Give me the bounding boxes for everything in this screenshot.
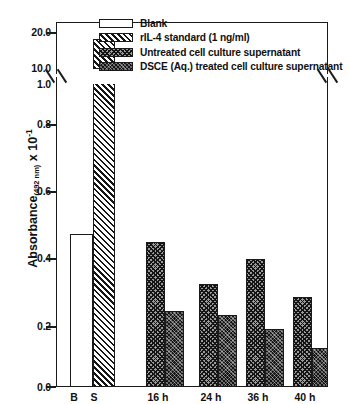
x-tick-label-24h: 24 h [194,391,228,403]
legend-swatch-untreated-icon [99,48,133,57]
legend-label-untreated: Untreated cell culture supernatant [140,47,300,58]
y-tick-label-20.0: 20.0 [9,26,51,38]
bar-dsce-40h [312,348,328,387]
bar-untreated-36h [246,259,265,387]
x-tick-label-16h: 16 h [141,391,175,403]
y-tick-mark-0.4 [46,258,56,260]
x-tick-label-40h: 40 h [288,391,322,403]
legend-swatch-dsce-icon [99,62,133,71]
legend-swatch-blank-icon [99,19,133,28]
y-tick-label-1.0: 1.0 [9,78,51,90]
bar-untreated-40h [293,297,312,387]
legend-label-dsce: DSCE (Aq.) treated cell culture supernat… [140,61,342,72]
figure-bar-chart: Absorbance(492 nm) x 10-1 0.0 0.2 0.4 0.… [0,0,349,404]
x-tick-label-36h: 36 h [241,391,275,403]
y-tick-mark-0.6 [46,191,56,193]
y-tick-mark-0.0 [46,386,56,388]
bar-untreated-16h [146,242,165,387]
bar-untreated-24h [199,284,218,387]
legend-item-blank: Blank [99,16,342,31]
legend-label-standard: rIL-4 standard (1 ng/ml) [140,32,250,43]
y-tick-label-0.8: 0.8 [9,118,51,130]
y-axis-title-exponent: -1 [24,129,34,137]
axis-break-left [46,74,70,77]
chart-legend: Blank rIL-4 standard (1 ng/ml) Untreated… [99,16,342,74]
y-tick-mark-20.0 [46,32,56,34]
x-tick-label-S: S [83,391,105,403]
y-tick-label-0.0: 0.0 [9,381,51,393]
y-tick-label-10.0: 10.0 [9,62,51,74]
bar-blank-B [70,234,93,387]
legend-item-standard: rIL-4 standard (1 ng/ml) [99,31,342,46]
x-tick-label-B: B [63,391,85,403]
bar-dsce-16h [165,311,184,387]
y-tick-mark-0.2 [46,326,56,328]
y-tick-label-0.2: 0.2 [9,320,51,332]
y-tick-label-0.4: 0.4 [9,252,51,264]
bar-dsce-24h [218,315,237,387]
legend-item-dsce: DSCE (Aq.) treated cell culture supernat… [99,60,342,75]
y-tick-mark-0.8 [46,124,56,126]
y-tick-label-0.6: 0.6 [9,185,51,197]
axis-break-right [318,74,340,77]
legend-label-blank: Blank [140,18,167,29]
legend-swatch-standard-icon [99,33,133,42]
bar-dsce-36h [265,329,284,387]
y-axis-title-multiplier: x 10 [26,137,40,165]
bar-standard-S-lower [93,84,115,387]
legend-item-untreated: Untreated cell culture supernatant [99,45,342,60]
